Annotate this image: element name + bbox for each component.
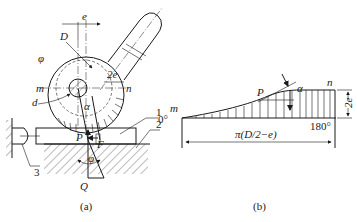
label-D: D <box>59 30 68 42</box>
label-F: F <box>96 138 104 150</box>
label-n-b: n <box>327 76 333 88</box>
label-phi-top: φ <box>38 52 44 64</box>
label-length: π(D/2−e) <box>235 128 277 141</box>
label-e: e <box>82 10 87 22</box>
label-180-deg: 180° <box>310 120 331 132</box>
caption-a: (a) <box>80 200 93 213</box>
label-m-b: m <box>170 102 178 114</box>
label-P: P <box>75 131 83 143</box>
label-2e: 2e <box>107 68 118 80</box>
label-phi-bottom: φ <box>88 152 94 164</box>
label-alpha: α <box>84 100 90 112</box>
figure-b: m n P α 2e 0° 180° π(D/2−e) (b) <box>158 74 354 213</box>
caption-b: (b) <box>253 200 266 213</box>
label-n: n <box>126 82 132 94</box>
label-0-deg: 0° <box>158 113 168 125</box>
label-d: d <box>32 96 38 108</box>
part-number-3: 3 <box>34 166 40 178</box>
label-2e-b: 2e <box>342 98 354 109</box>
label-Q: Q <box>80 180 88 192</box>
label-m: m <box>36 82 44 94</box>
label-P-b: P <box>256 86 264 98</box>
figure-a: e D φ 2e m n d α 1 2 <box>6 8 162 213</box>
eccentric-clamp-diagram: e D φ 2e m n d α 1 2 <box>0 0 357 222</box>
label-alpha-b: α <box>297 82 303 94</box>
